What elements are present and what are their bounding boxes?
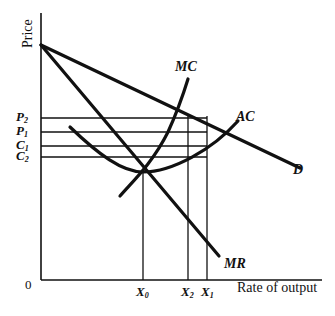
output-tick-x1-letter: X — [201, 284, 210, 299]
curve-label-mr: MR — [224, 257, 246, 271]
economics-diagram-figure: Price Rate of output 0 P2 P1 C1 C2 X0 X2… — [0, 0, 335, 316]
output-tick-x0: X0 — [136, 285, 149, 298]
price-tick-p1: P1 — [16, 124, 28, 137]
output-tick-x1: X1 — [201, 285, 214, 298]
y-axis-title: Price — [21, 19, 35, 48]
output-tick-x0-letter: X — [136, 284, 145, 299]
demand-curve — [41, 45, 300, 168]
output-tick-x2-sub: 2 — [190, 291, 194, 300]
origin-label: 0 — [25, 278, 32, 291]
price-tick-p2: P2 — [16, 110, 28, 123]
cost-tick-c2-letter: C — [16, 148, 25, 163]
curve-label-d: D — [293, 163, 303, 177]
output-tick-x1-sub: 1 — [210, 291, 214, 300]
cost-tick-c2: C2 — [16, 149, 29, 162]
output-tick-x0-sub: 0 — [145, 291, 149, 300]
output-tick-x2-letter: X — [181, 284, 190, 299]
cost-tick-c2-sub: 2 — [25, 155, 29, 164]
x-axis-title: Rate of output — [237, 281, 317, 295]
price-level-lines — [41, 118, 207, 157]
output-level-lines — [143, 116, 207, 280]
price-tick-p2-letter: P — [16, 109, 24, 124]
marginal-revenue-curve — [41, 45, 219, 256]
output-tick-x2: X2 — [181, 285, 194, 298]
curve-label-ac: AC — [236, 110, 255, 124]
curve-label-mc: MC — [175, 60, 197, 74]
price-tick-p1-letter: P — [16, 123, 24, 138]
diagram-canvas — [0, 0, 335, 316]
